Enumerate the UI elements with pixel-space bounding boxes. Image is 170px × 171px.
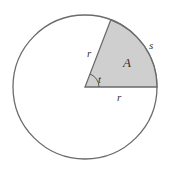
sector-diagram: r r s A t (0, 0, 170, 171)
label-radius-horizontal: r (117, 91, 122, 103)
label-area: A (122, 55, 131, 70)
label-radius-slanted: r (87, 47, 92, 59)
label-arc-length: s (149, 39, 153, 51)
